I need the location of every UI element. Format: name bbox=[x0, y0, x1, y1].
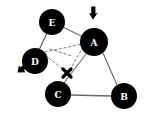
node-b[interactable]: B bbox=[111, 83, 137, 109]
node-d-label: D bbox=[31, 57, 39, 67]
node-a-label: A bbox=[90, 38, 99, 48]
node-a[interactable]: A bbox=[80, 28, 108, 56]
arrow-down-icon-a-shape bbox=[89, 7, 98, 20]
node-c-label: C bbox=[54, 90, 61, 100]
edge-a-b bbox=[103, 53, 117, 85]
cross-mark-icon bbox=[63, 69, 71, 77]
edge-e-d bbox=[39, 33, 47, 50]
node-e[interactable]: E bbox=[39, 9, 65, 35]
arrow-down-icon-a bbox=[89, 7, 98, 20]
node-group: E A D C B bbox=[22, 9, 137, 109]
dashed-edge-inner bbox=[50, 49, 72, 56]
graph-svg: E A D C B bbox=[0, 0, 146, 119]
edge-e-a bbox=[63, 27, 83, 37]
diagram-canvas: E A D C B bbox=[0, 0, 146, 119]
node-b-label: B bbox=[120, 92, 128, 102]
edge-c-b bbox=[71, 95, 111, 96]
edge-a-c bbox=[64, 54, 86, 83]
node-e-label: E bbox=[49, 18, 56, 28]
node-d[interactable]: D bbox=[22, 48, 48, 74]
dashed-edge-d-a bbox=[45, 44, 82, 52]
node-c[interactable]: C bbox=[45, 81, 71, 107]
